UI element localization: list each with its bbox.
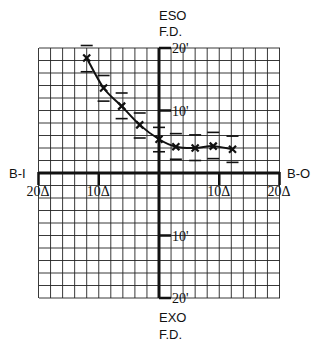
y-label-top-1: ESO	[159, 8, 186, 23]
y-tick-label: 20'	[172, 291, 189, 306]
y-label-top-2: F.D.	[159, 24, 182, 39]
y-tick-label: 10'	[172, 229, 189, 244]
y-label-bottom-2: F.D.	[159, 327, 182, 342]
x-tick-label: 20Δ	[268, 184, 291, 199]
y-tick-label: 20'	[172, 41, 189, 56]
y-tick-label: 10'	[172, 104, 189, 119]
x-tick-label: 10Δ	[207, 184, 230, 199]
y-label-bottom-1: EXO	[159, 310, 186, 325]
x-tick-label: 20Δ	[27, 184, 50, 199]
x-label-left: B-I	[9, 166, 26, 181]
x-label-right: B-O	[287, 166, 310, 181]
x-tick-label: 10Δ	[87, 184, 110, 199]
fixation-disparity-chart: ESO F.D. EXO F.D. B-I B-O 20Δ10Δ10Δ20Δ 2…	[0, 0, 319, 347]
